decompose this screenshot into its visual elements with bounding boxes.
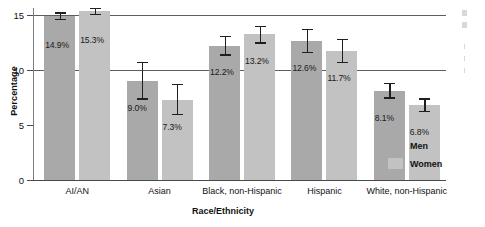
- bar-value-label: 9.0%: [128, 103, 147, 113]
- bar-men[interactable]: [291, 41, 322, 180]
- error-bar-cap-upper: [137, 62, 148, 63]
- y-axis-ticks: 051015: [0, 0, 33, 189]
- error-bar-cap-lower: [337, 62, 348, 63]
- x-axis-title: Race/Ethnicity: [0, 206, 446, 216]
- error-bar-cap-upper: [255, 26, 266, 27]
- error-bar-cap-lower: [137, 98, 148, 99]
- error-bar-stem: [260, 26, 261, 43]
- plot-area: 14.9%15.3%9.0%7.3%12.2%13.2%12.6%11.7%8.…: [34, 8, 446, 180]
- y-tick-label: 5: [19, 119, 24, 130]
- error-bar-cap-upper: [55, 12, 66, 13]
- error-bar-cap-upper: [90, 8, 101, 9]
- x-tick-label: AI/AN: [65, 186, 89, 196]
- bar-value-label: 14.9%: [45, 40, 69, 50]
- error-bar-stem: [389, 83, 390, 97]
- error-bar-cap-lower: [302, 52, 313, 53]
- chart-legend: Men Women: [388, 140, 442, 176]
- error-bar-stem: [225, 36, 226, 55]
- error-bar-stem: [342, 39, 343, 62]
- bar-men[interactable]: [209, 46, 240, 181]
- bar-value-label: 8.1%: [375, 113, 394, 123]
- x-tick-label: White, non-Hispanic: [367, 186, 448, 196]
- bar-value-label: 6.8%: [410, 127, 429, 137]
- bar-value-label: 11.7%: [327, 73, 350, 83]
- scan-artifact: [464, 44, 465, 49]
- bar-value-label: 7.3%: [163, 122, 182, 132]
- legend-label-women: Women: [410, 159, 442, 169]
- scan-artifact: [464, 56, 465, 61]
- bar-value-label: 13.2%: [245, 56, 269, 66]
- error-bar-stem: [142, 62, 143, 98]
- x-tick-label: Black, non-Hispanic: [202, 186, 282, 196]
- error-bar-cap-upper: [419, 98, 430, 99]
- legend-swatch-women-icon: [388, 158, 403, 169]
- error-bar-cap-upper: [220, 36, 231, 37]
- legend-item-men[interactable]: Men: [388, 140, 442, 151]
- error-bar-stem: [424, 98, 425, 110]
- scan-artifact: [462, 22, 467, 28]
- bar-value-label: 12.2%: [210, 67, 234, 77]
- error-bar-cap-lower: [384, 97, 395, 98]
- scan-artifact: [462, 10, 467, 16]
- x-tick-label: Asian: [148, 186, 171, 196]
- bar-value-label: 12.6%: [292, 63, 316, 73]
- scan-artifact: [464, 68, 465, 73]
- legend-item-women[interactable]: Women: [388, 158, 442, 169]
- legend-swatch-men-icon: [388, 140, 403, 151]
- legend-label-men: Men: [410, 141, 428, 151]
- chart-figure: Percentage 051015 14.9%15.3%9.0%7.3%12.2…: [0, 0, 485, 227]
- error-bar-cap-lower: [90, 14, 101, 15]
- x-axis-line: [33, 180, 446, 181]
- error-bar-cap-upper: [172, 84, 183, 85]
- error-bar-cap-lower: [172, 114, 183, 115]
- error-bar-cap-upper: [302, 29, 313, 30]
- error-bar-cap-upper: [337, 39, 348, 40]
- y-tick-label: 15: [13, 9, 24, 20]
- y-tick-label: 0: [19, 175, 24, 186]
- error-bar-cap-lower: [220, 54, 231, 55]
- error-bar-cap-lower: [419, 111, 430, 112]
- error-bar-cap-lower: [255, 42, 266, 43]
- bar-value-label: 15.3%: [80, 35, 104, 45]
- error-bar-cap-upper: [384, 83, 395, 84]
- x-tick-label: Hispanic: [307, 186, 342, 196]
- error-bar-cap-lower: [55, 19, 66, 20]
- error-bar-stem: [177, 84, 178, 114]
- error-bar-stem: [307, 29, 308, 52]
- y-tick-label: 10: [13, 64, 24, 75]
- bar-women[interactable]: [326, 51, 357, 180]
